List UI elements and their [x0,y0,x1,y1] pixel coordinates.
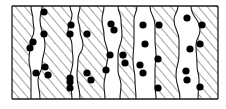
particle-dot [26,44,33,51]
particle-dot [106,51,113,58]
particle-dot [183,14,190,21]
particle-dot [66,30,73,37]
particle-dot [141,40,148,47]
particle-dot [196,40,203,47]
particle-dot [83,69,90,76]
particle-dot [196,83,203,90]
particle-dot [198,21,205,28]
particle-dot [183,76,190,83]
particle-dot [40,8,47,15]
particle-dot [102,66,109,73]
grain-6 [191,6,218,99]
particle-dot [119,51,126,58]
particle-dot [40,30,47,37]
particle-dot [182,67,189,74]
particle-dot [67,21,74,28]
particle-dot [87,76,94,83]
particle-dot [186,45,193,52]
particle-dot [110,26,117,33]
particle-dot [139,69,146,76]
grain-2 [38,6,73,99]
columnar-grain-diagram [0,0,226,109]
particle-dot [44,71,51,78]
particle-dot [83,30,90,37]
particle-dot [154,55,161,62]
particle-dot [136,61,143,68]
particle-dot [155,21,162,28]
particle-dot [121,59,128,66]
grain-3 [77,6,108,99]
particle-dot [139,21,146,28]
particle-dot [32,69,39,76]
particle-dot [66,84,73,91]
diagram-canvas: Schematic of columnar grains (hatched) w… [0,0,226,109]
particle-dot [154,84,161,91]
particle-dot [41,63,48,70]
